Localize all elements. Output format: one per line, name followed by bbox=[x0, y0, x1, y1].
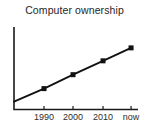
data-point-marker bbox=[42, 86, 47, 91]
axes bbox=[14, 27, 138, 110]
line-chart-canvas: 199020002010now bbox=[0, 0, 149, 133]
x-tick-label: 1990 bbox=[34, 112, 54, 122]
x-tick-label: now bbox=[123, 112, 140, 122]
x-tick-label: 2000 bbox=[63, 112, 83, 122]
chart-container: Computer ownership 199020002010now bbox=[0, 0, 149, 133]
data-point-marker bbox=[129, 45, 134, 50]
x-tick-label: 2010 bbox=[93, 112, 113, 122]
data-point-marker bbox=[71, 72, 76, 77]
data-point-marker bbox=[101, 58, 106, 63]
